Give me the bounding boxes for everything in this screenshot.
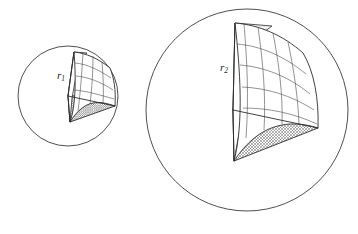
- small-radius-subscript: 1: [61, 74, 65, 83]
- large-radius-subscript: 2: [224, 66, 228, 75]
- sphere-solid-angle-figure: r1: [0, 0, 358, 234]
- small-sphere-group: r1: [18, 46, 118, 146]
- large-sphere-group: r2: [146, 9, 348, 211]
- figure-root: r1: [0, 0, 358, 234]
